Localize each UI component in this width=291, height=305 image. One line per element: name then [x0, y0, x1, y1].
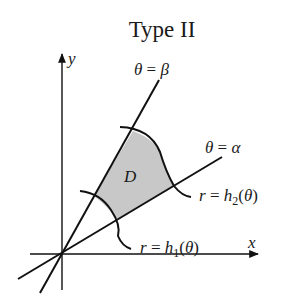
ray-theta-alpha-label: θ = α — [205, 138, 241, 157]
diagram-title: Type II — [129, 17, 196, 42]
x-axis-label: x — [247, 233, 256, 252]
curve-h2-label: r = h2(θ) — [199, 186, 258, 208]
curve-h1-label: r = h1(θ) — [140, 238, 199, 260]
y-axis-label: y — [66, 49, 76, 68]
ray-theta-beta-label: θ = β — [134, 60, 169, 79]
polar-region-diagram: Type II y x θ = β θ = α r = h1(θ) r = h2… — [0, 0, 291, 305]
region-d-label: D — [123, 167, 137, 186]
